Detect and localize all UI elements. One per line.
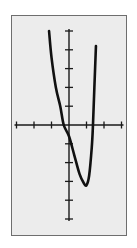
function-graph [0, 0, 137, 248]
